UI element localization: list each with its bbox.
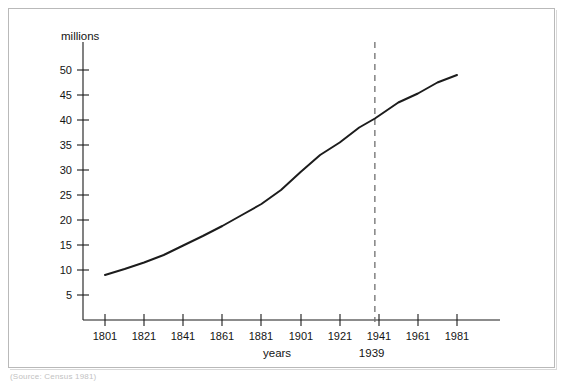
population-line [105, 75, 457, 275]
x-tick-label: 1901 [281, 331, 321, 342]
y-tick-label: 25 [48, 190, 72, 201]
chart-page: 5 10 15 20 25 30 35 40 45 50 1801 1821 1… [0, 0, 574, 381]
y-tick-label: 40 [48, 115, 72, 126]
x-tick-label: 1841 [163, 331, 203, 342]
y-tick-label: 5 [48, 290, 72, 301]
x-axis-title: years [263, 348, 291, 360]
x-tick-label: 1921 [320, 331, 360, 342]
chart-svg [0, 0, 574, 381]
year-1939-annotation-label: 1939 [359, 348, 385, 360]
x-tick-label: 1821 [124, 331, 164, 342]
y-tick-label: 30 [48, 165, 72, 176]
y-tick-label: 20 [48, 215, 72, 226]
x-tick-label: 1961 [398, 331, 438, 342]
x-tick-label: 1881 [241, 331, 281, 342]
source-caption: (Source: Census 1981) [10, 372, 96, 381]
x-tick-label: 1801 [85, 331, 125, 342]
y-tick-label: 35 [48, 140, 72, 151]
y-tick-label: 15 [48, 240, 72, 251]
x-tick-label: 1941 [359, 331, 399, 342]
y-axis-title: millions [61, 31, 99, 43]
line-chart: 5 10 15 20 25 30 35 40 45 50 1801 1821 1… [0, 0, 574, 381]
y-tick-label: 10 [48, 265, 72, 276]
x-tick-label: 1981 [437, 331, 477, 342]
y-tick-label: 50 [48, 65, 72, 76]
x-tick-label: 1861 [202, 331, 242, 342]
y-tick-label: 45 [48, 90, 72, 101]
